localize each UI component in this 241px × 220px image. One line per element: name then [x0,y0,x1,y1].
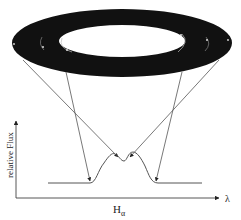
projection-arrows [23,60,219,181]
axes [16,121,219,198]
accretion-disk [12,9,232,77]
disk-line-profile-diagram [0,0,241,220]
x-axis-label: Hα [113,203,125,218]
x-label-main: H [113,203,121,215]
y-axis-label: relative Flux [5,115,15,195]
x-label-sub: α [121,209,125,218]
wavelength-label: λ [225,193,230,204]
h-alpha-profile [48,152,202,183]
